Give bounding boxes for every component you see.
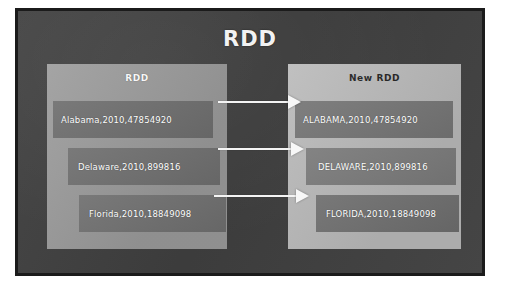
record-text-target-florida: FLORIDA,2010,18849098 <box>326 209 436 219</box>
record-box-target-florida: FLORIDA,2010,18849098 <box>316 195 459 232</box>
slide-frame: RDD RDD Alabama,2010,47854920 Delaware,2… <box>15 8 485 276</box>
record-text-source-florida: Florida,2010,18849098 <box>89 209 191 219</box>
record-box-target-alabama: ALABAMA,2010,47854920 <box>295 101 453 138</box>
panel-source-rdd: RDD Alabama,2010,47854920 Delaware,2010,… <box>47 64 227 249</box>
arrow-shaft <box>218 148 291 150</box>
panel-source-rdd-label: RDD <box>47 73 227 83</box>
record-box-target-delaware: DELAWARE,2010,899816 <box>306 148 456 185</box>
panel-target-new-rdd-label: New RDD <box>288 73 461 83</box>
record-text-target-alabama: ALABAMA,2010,47854920 <box>303 115 418 125</box>
record-box-source-alabama: Alabama,2010,47854920 <box>53 101 213 138</box>
record-box-source-florida: Florida,2010,18849098 <box>79 195 226 232</box>
record-text-target-delaware: DELAWARE,2010,899816 <box>318 162 428 172</box>
panel-target-new-rdd: New RDD ALABAMA,2010,47854920 DELAWARE,2… <box>288 64 461 249</box>
record-text-source-delaware: Delaware,2010,899816 <box>78 162 181 172</box>
record-text-source-alabama: Alabama,2010,47854920 <box>61 115 172 125</box>
arrow-shaft <box>218 101 288 103</box>
record-box-source-delaware: Delaware,2010,899816 <box>68 148 220 185</box>
slide-title: RDD <box>18 27 482 51</box>
